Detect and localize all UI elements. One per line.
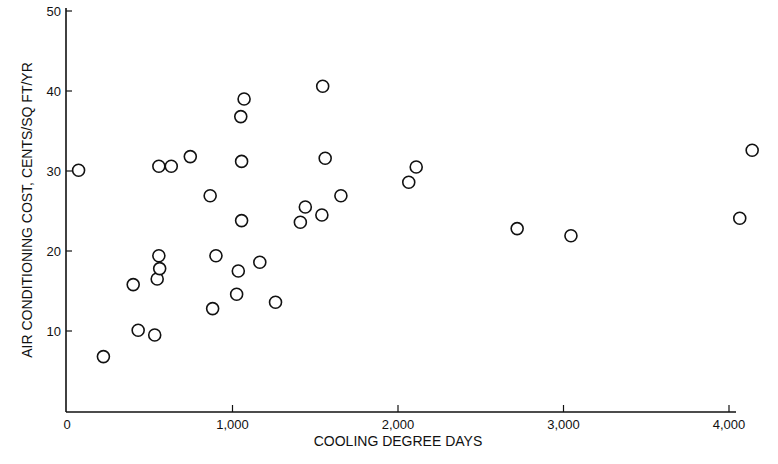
data-point — [210, 250, 222, 262]
x-tick-label: 3,000 — [547, 417, 580, 432]
data-point — [235, 111, 247, 123]
data-point — [316, 209, 328, 221]
data-point — [238, 93, 250, 105]
data-point — [511, 223, 523, 235]
data-point — [403, 176, 415, 188]
y-tick-label: 40 — [47, 84, 61, 99]
data-point — [153, 160, 165, 172]
data-point — [254, 256, 266, 268]
data-point — [270, 296, 282, 308]
scatter-chart: 1020304050 AIR CONDITIONING COST, CENTS/… — [0, 0, 778, 464]
data-point — [319, 152, 331, 164]
x-tick-label: 1,000 — [216, 417, 249, 432]
data-point — [184, 151, 196, 163]
y-tick-label: 50 — [47, 4, 61, 19]
y-ticks: 1020304050 — [47, 4, 72, 339]
data-point — [734, 212, 746, 224]
x-tick-label: 4,000 — [713, 417, 746, 432]
x-axis: 01,0002,0003,0004,000 COOLING DEGREE DAY… — [63, 405, 745, 449]
x-axis-title: COOLING DEGREE DAYS — [314, 433, 483, 449]
data-point — [165, 160, 177, 172]
data-point — [410, 161, 422, 173]
data-points — [73, 80, 759, 362]
data-point — [232, 265, 244, 277]
data-point — [565, 230, 577, 242]
data-point — [317, 80, 329, 92]
data-point — [236, 215, 248, 227]
data-point — [73, 164, 85, 176]
data-point — [204, 190, 216, 202]
x-tick-label: 0 — [63, 417, 70, 432]
x-tick-label: 2,000 — [382, 417, 415, 432]
data-point — [97, 351, 109, 363]
y-axis-title: AIR CONDITIONING COST, CENTS/SQ FT/YR — [19, 62, 35, 358]
data-point — [132, 324, 144, 336]
y-tick-label: 30 — [47, 164, 61, 179]
data-point — [207, 303, 219, 315]
data-point — [154, 263, 166, 275]
data-point — [294, 216, 306, 228]
data-point — [746, 144, 758, 156]
data-point — [231, 288, 243, 300]
y-axis: 1020304050 AIR CONDITIONING COST, CENTS/… — [19, 4, 72, 412]
data-point — [127, 279, 139, 291]
data-point — [335, 190, 347, 202]
data-point — [153, 250, 165, 262]
data-point — [149, 329, 161, 341]
y-tick-label: 20 — [47, 244, 61, 259]
data-point — [299, 201, 311, 213]
data-point — [236, 155, 248, 167]
y-tick-label: 10 — [47, 324, 61, 339]
x-ticks: 01,0002,0003,0004,000 — [63, 405, 745, 432]
